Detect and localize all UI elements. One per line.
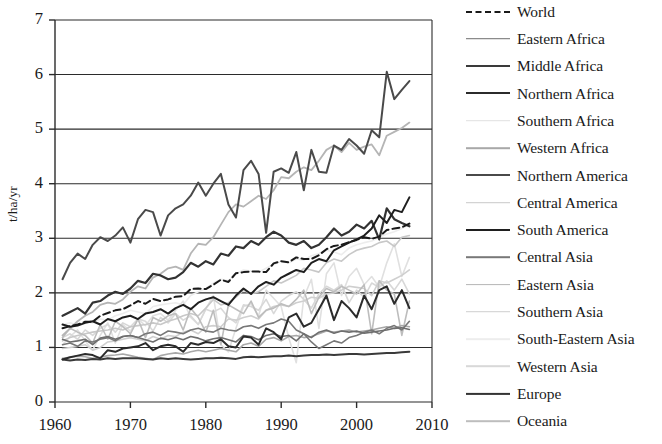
legend-color-swatch [466, 59, 510, 73]
legend-item-world[interactable]: World [466, 0, 555, 25]
legend-item-label: Southern Asia [517, 304, 603, 320]
legend-item-south-eastern-asia[interactable]: South-Eastern Asia [466, 326, 634, 353]
legend-item-label: South-Eastern Asia [517, 331, 634, 347]
legend-item-southern-africa[interactable]: Southern Africa [466, 107, 614, 134]
y-tick-label: 0 [19, 393, 43, 410]
y-tick-label: 4 [19, 175, 43, 192]
plot-area: t/ha/yr 76543210196019701980199020002010 [0, 0, 460, 444]
legend-color-swatch [466, 114, 510, 128]
legend-item-label: Northern America [517, 168, 628, 184]
legend-color-swatch [466, 196, 510, 210]
y-tick-label: 3 [19, 229, 43, 246]
legend-item-central-america[interactable]: Central America [466, 189, 618, 216]
legend-item-label: Northern Africa [517, 86, 614, 102]
x-tick-label: 1990 [251, 417, 311, 434]
legend-color-swatch [466, 86, 510, 100]
legend-color-swatch [466, 168, 510, 182]
legend-item-middle-africa[interactable]: Middle Africa [466, 53, 603, 80]
legend-color-swatch [466, 141, 510, 155]
legend-item-label: Central Asia [517, 249, 593, 265]
legend-item-label: Middle Africa [517, 58, 603, 74]
legend-item-label: Western Asia [517, 359, 598, 375]
legend-color-swatch [466, 359, 510, 373]
x-tick-label: 1960 [25, 417, 85, 434]
series-line [63, 352, 410, 361]
legend-item-label: South America [517, 222, 608, 238]
x-tick-label: 2010 [402, 417, 462, 434]
legend-color-swatch [466, 305, 510, 319]
x-tick-label: 1980 [176, 417, 236, 434]
cereal-yield-line-chart: t/ha/yr 76543210196019701980199020002010… [0, 0, 662, 444]
legend-color-swatch [466, 32, 510, 46]
legend-item-label: Oceania [517, 413, 567, 429]
legend-item-label: Eastern Africa [517, 31, 605, 47]
legend-item-northern-america[interactable]: Northern America [466, 162, 628, 189]
legend-item-eastern-asia[interactable]: Eastern Asia [466, 271, 594, 298]
legend-item-europe[interactable]: Europe [466, 380, 561, 407]
legend-color-swatch [466, 387, 510, 401]
legend-item-oceania[interactable]: Oceania [466, 408, 567, 435]
x-tick-label: 1970 [100, 417, 160, 434]
legend-item-label: Central America [517, 195, 618, 211]
legend-color-swatch [466, 250, 510, 264]
legend-item-northern-africa[interactable]: Northern Africa [466, 80, 614, 107]
legend-item-label: World [517, 4, 555, 20]
y-tick-label: 1 [19, 338, 43, 355]
y-tick-label: 7 [19, 11, 43, 28]
legend-item-western-asia[interactable]: Western Asia [466, 353, 598, 380]
legend-item-southern-asia[interactable]: Southern Asia [466, 298, 603, 325]
legend-color-swatch [466, 414, 510, 428]
legend-item-label: Western Africa [517, 140, 609, 156]
series-line [63, 208, 410, 316]
legend-color-swatch [466, 223, 510, 237]
legend-item-south-america[interactable]: South America [466, 216, 608, 243]
series-line [63, 123, 410, 336]
legend-item-eastern-africa[interactable]: Eastern Africa [466, 25, 605, 52]
legend-color-swatch [466, 5, 510, 19]
legend-item-western-africa[interactable]: Western Africa [466, 135, 609, 162]
y-tick-label: 2 [19, 284, 43, 301]
legend-item-label: Southern Africa [517, 113, 614, 129]
legend-item-central-asia[interactable]: Central Asia [466, 244, 593, 271]
y-tick-label: 6 [19, 66, 43, 83]
legend-color-swatch [466, 278, 510, 292]
plot-canvas [0, 0, 460, 444]
legend-item-label: Eastern Asia [517, 277, 594, 293]
x-tick-label: 2000 [327, 417, 387, 434]
chart-legend: WorldEastern AfricaMiddle AfricaNorthern… [466, 0, 662, 444]
y-tick-label: 5 [19, 120, 43, 137]
legend-item-label: Europe [517, 386, 561, 402]
legend-color-swatch [466, 332, 510, 346]
